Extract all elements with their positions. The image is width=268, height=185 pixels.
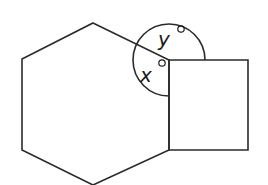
angle-label-y: y <box>157 27 171 51</box>
hexagon <box>22 23 169 185</box>
degree-symbol-x <box>159 60 165 66</box>
angle-label-x: x <box>139 63 152 87</box>
geometry-diagram: y x <box>0 0 268 185</box>
square <box>169 60 248 150</box>
